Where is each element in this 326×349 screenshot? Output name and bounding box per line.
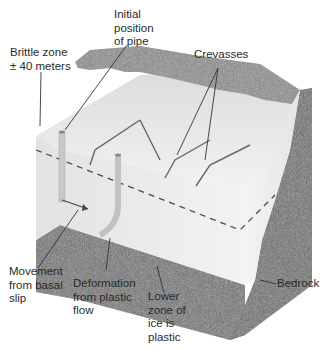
label-lower-zone: Lower zone of ice is plastic: [148, 290, 186, 344]
label-initial-position: Initial position of pipe: [114, 8, 154, 49]
label-brittle-zone: Brittle zone ± 40 meters: [10, 46, 71, 73]
initial-pipe: [59, 132, 65, 202]
label-plastic-flow: Deformation from plastic flow: [73, 277, 136, 318]
label-bedrock: Bedrock: [277, 277, 319, 291]
label-basal-slip: Movement from basal slip: [9, 265, 63, 306]
label-crevasses: Crevasses: [194, 48, 248, 62]
